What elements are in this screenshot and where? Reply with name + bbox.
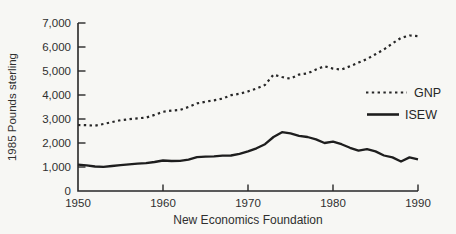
legend: GNP ISEW	[366, 86, 441, 122]
y-tick-label-1000: 1,000	[42, 161, 71, 173]
y-tick-label-2000: 2,000	[42, 137, 71, 149]
x-axis-title: New Economics Foundation	[173, 213, 322, 227]
isew-vs-gnp-chart: 01,0002,0003,0004,0005,0006,0007,0001950…	[0, 0, 456, 234]
x-tick-label-1950: 1950	[65, 197, 91, 209]
y-tick-label-4000: 4,000	[42, 89, 71, 101]
gnp-line	[78, 36, 418, 126]
y-tick-label-5000: 5,000	[42, 65, 71, 77]
x-tick-label-1990: 1990	[405, 197, 431, 209]
legend-label-isew: ISEW	[405, 108, 437, 122]
isew-line	[78, 132, 418, 167]
y-tick-label-7000: 7,000	[42, 17, 71, 29]
y-tick-label-3000: 3,000	[42, 113, 71, 125]
data-series	[78, 36, 418, 167]
x-tick-label-1970: 1970	[235, 197, 261, 209]
legend-label-gnp: GNP	[414, 86, 441, 100]
y-tick-label-0: 0	[65, 185, 71, 197]
y-axis-title: 1985 Pounds sterling	[6, 53, 18, 161]
y-tick-label-6000: 6,000	[42, 41, 71, 53]
axis-spine	[78, 23, 418, 191]
x-tick-label-1960: 1960	[150, 197, 176, 209]
axes: 01,0002,0003,0004,0005,0006,0007,0001950…	[42, 17, 431, 209]
x-tick-label-1980: 1980	[320, 197, 346, 209]
chart-canvas: 01,0002,0003,0004,0005,0006,0007,0001950…	[0, 0, 456, 234]
